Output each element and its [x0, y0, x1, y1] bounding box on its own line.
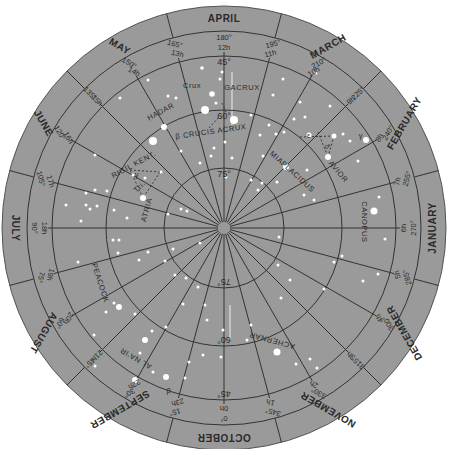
star: [384, 238, 387, 241]
star: [180, 208, 183, 211]
star: [282, 78, 285, 81]
star: [113, 209, 116, 212]
star: [222, 329, 225, 332]
star-name-label: γ: [359, 131, 363, 140]
star: [215, 102, 218, 105]
star: [224, 141, 227, 144]
star: [274, 349, 281, 356]
month-label: OCTOBER: [197, 432, 251, 443]
star: [160, 171, 163, 174]
star: [134, 313, 137, 316]
star-name-label: CANOPUS: [360, 201, 369, 242]
star: [295, 363, 298, 366]
star: [186, 210, 189, 213]
star: [167, 213, 170, 216]
star: [362, 280, 365, 283]
star: [210, 155, 213, 158]
star: [174, 274, 177, 277]
star: [259, 134, 262, 137]
star-name-label: γ: [135, 170, 139, 179]
star: [202, 354, 205, 357]
star: [306, 169, 309, 172]
declination-label: 75°: [217, 169, 231, 179]
ra-degree-label: 180°: [216, 33, 232, 42]
month-label: JANUARY: [427, 202, 438, 253]
star: [93, 334, 96, 337]
star: [117, 252, 120, 255]
star: [112, 239, 115, 242]
star: [289, 279, 292, 282]
star-name-label: β: [167, 386, 172, 395]
star: [363, 137, 369, 143]
ra-degree-label: 90°: [30, 222, 39, 233]
star: [293, 118, 296, 121]
star: [106, 190, 109, 193]
star: [200, 66, 204, 70]
star: [309, 358, 312, 361]
star: [149, 137, 157, 145]
star: [119, 97, 122, 100]
star: [333, 261, 336, 264]
star: [199, 162, 202, 165]
month-label: APRIL: [208, 13, 241, 24]
star: [250, 114, 253, 117]
star: [184, 377, 187, 380]
declination-label: 45°: [217, 389, 231, 399]
star: [219, 78, 222, 81]
star: [206, 319, 209, 322]
star: [163, 374, 169, 380]
ra-degree-label: 0°: [220, 414, 227, 423]
star: [342, 133, 345, 136]
star: [204, 304, 207, 307]
star: [144, 177, 147, 180]
star: [182, 303, 185, 306]
star: [377, 273, 380, 276]
star: [180, 150, 183, 153]
star: [105, 311, 108, 314]
star: [165, 326, 168, 329]
star: [126, 217, 129, 220]
star: [209, 91, 215, 97]
star: [349, 140, 352, 143]
star: [316, 367, 319, 370]
star: [96, 205, 99, 208]
star: [139, 352, 142, 355]
star: [313, 199, 316, 202]
star: [142, 337, 148, 343]
star: [94, 154, 97, 157]
ra-hour-label: 18h: [40, 222, 49, 235]
star: [278, 236, 281, 239]
ra-hour-label: 0h: [220, 404, 228, 413]
star: [303, 194, 306, 197]
star-name-label: ε: [307, 131, 311, 140]
star: [201, 106, 209, 114]
star: [213, 147, 216, 150]
star: [378, 196, 381, 199]
star: [175, 97, 178, 100]
star: [275, 133, 278, 136]
star-name-label: GACRUX: [224, 83, 260, 92]
star: [231, 157, 234, 160]
ra-hour-label: 12h: [218, 43, 231, 52]
ra-degree-label: 270°: [409, 220, 418, 236]
star: [262, 155, 265, 158]
star: [250, 179, 253, 182]
star: [138, 259, 141, 262]
star: [323, 288, 326, 291]
star: [280, 297, 283, 300]
star: [261, 182, 264, 185]
star: [341, 255, 344, 258]
star: [257, 189, 260, 192]
star: [147, 251, 150, 254]
star: [268, 124, 271, 127]
star: [94, 189, 97, 192]
star: [172, 248, 175, 251]
month-label: JULY: [10, 215, 21, 242]
star: [85, 192, 88, 195]
star: [332, 134, 337, 139]
star: [65, 204, 68, 207]
star: [89, 208, 92, 211]
star: [85, 204, 88, 207]
ra-hour-label: 6h: [399, 224, 408, 232]
star-name-label: Crux: [183, 81, 201, 90]
